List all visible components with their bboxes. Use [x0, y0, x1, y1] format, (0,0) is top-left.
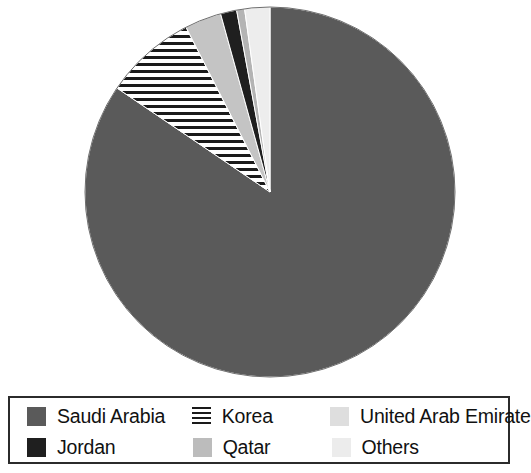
- legend-item-jordan[interactable]: Jordan: [10, 436, 187, 458]
- legend-label-qatar: Qatar: [223, 436, 271, 458]
- legend-swatch-united-arab-emirate-icon: [330, 407, 349, 426]
- legend-row: Jordan Qatar Others: [10, 431, 508, 463]
- legend-label-jordan: Jordan: [57, 436, 115, 458]
- legend-label-saudi-arabia: Saudi Arabia: [57, 405, 165, 427]
- pie-plot-area: [0, 0, 520, 392]
- pie-slice-group: [85, 7, 455, 377]
- legend-label-united-arab-emirate: United Arab Emirate: [360, 405, 531, 427]
- legend-row: Saudi Arabia Korea United Arab Emirate: [10, 400, 508, 432]
- chart-legend: Saudi Arabia Korea United Arab Emirate J…: [8, 396, 510, 464]
- legend-item-korea[interactable]: Korea: [186, 405, 324, 427]
- legend-label-others: Others: [362, 436, 419, 458]
- legend-label-korea: Korea: [222, 405, 273, 427]
- legend-swatch-jordan-icon: [27, 438, 46, 457]
- legend-swatch-korea-icon: [192, 407, 211, 426]
- legend-item-saudi-arabia[interactable]: Saudi Arabia: [10, 405, 186, 427]
- legend-item-qatar[interactable]: Qatar: [187, 436, 326, 458]
- legend-swatch-qatar-icon: [193, 438, 212, 457]
- legend-item-others[interactable]: Others: [326, 436, 509, 458]
- legend-swatch-others-icon: [332, 438, 351, 457]
- legend-item-united-arab-emirate[interactable]: United Arab Emirate: [324, 405, 508, 427]
- legend-swatch-saudi-arabia-icon: [27, 407, 46, 426]
- pie-svg: [0, 0, 520, 392]
